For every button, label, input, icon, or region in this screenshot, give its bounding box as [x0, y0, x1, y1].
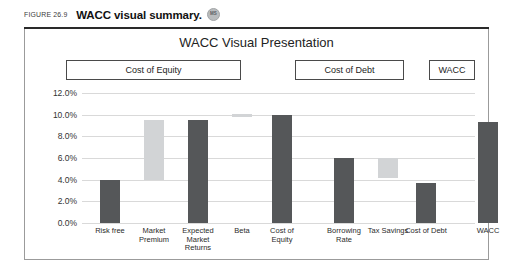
- chart-bar: [416, 183, 436, 223]
- chart-bar: [478, 122, 498, 223]
- group-box-cost-of-equity-label: Cost of Equity: [125, 65, 181, 75]
- chart-bar: [378, 158, 398, 178]
- x-axis-tick-label: WACC: [465, 227, 511, 236]
- chart-bar: [100, 180, 120, 223]
- x-axis-tick-label: Cost of Debt: [403, 227, 449, 236]
- chart-bar: [144, 120, 164, 180]
- chart-bar: [232, 114, 252, 117]
- chart-title: WACC Visual Presentation: [25, 35, 488, 50]
- x-axis-tick-label: Expected Market Returns: [175, 227, 221, 253]
- chart-bar: [272, 115, 292, 223]
- figure-caption-header: FIGURE 26.9 WACC visual summary. MS: [24, 8, 220, 21]
- x-axis-labels: Risk freeMarket PremiumExpected Market R…: [82, 227, 475, 259]
- y-axis-tick-label: 10.0%: [53, 110, 77, 120]
- y-axis-tick-label: 12.0%: [53, 88, 77, 98]
- chart-panel: WACC Visual Presentation Cost of Equity …: [24, 29, 489, 260]
- group-box-wacc-label: WACC: [438, 65, 465, 75]
- figure-title: WACC visual summary.: [76, 9, 202, 21]
- gridline: [82, 93, 475, 94]
- group-box-wacc: WACC: [429, 60, 475, 80]
- x-axis-tick-label: Market Premium: [131, 227, 177, 244]
- circle-badge-icon: MS: [207, 8, 220, 21]
- group-box-cost-of-equity: Cost of Equity: [66, 60, 241, 80]
- chart-bar: [334, 158, 354, 223]
- figure-number: FIGURE 26.9: [24, 10, 67, 19]
- x-axis-tick-label: Risk free: [87, 227, 133, 236]
- chart-bar: [188, 120, 208, 223]
- group-box-cost-of-debt: Cost of Debt: [295, 60, 404, 80]
- y-axis-tick-label: 8.0%: [58, 131, 77, 141]
- y-axis-tick-label: 0.0%: [58, 218, 77, 228]
- x-axis-tick-label: Borrowing Rate: [321, 227, 367, 244]
- y-axis-tick-label: 6.0%: [58, 153, 77, 163]
- gridline: [82, 223, 475, 224]
- x-axis-tick-label: Cost of Equity: [259, 227, 305, 244]
- y-axis-tick-label: 4.0%: [58, 175, 77, 185]
- plot-area: 0.0%2.0%4.0%6.0%8.0%10.0%12.0%: [82, 93, 475, 223]
- group-box-cost-of-debt-label: Cost of Debt: [324, 65, 374, 75]
- y-axis-tick-label: 2.0%: [58, 196, 77, 206]
